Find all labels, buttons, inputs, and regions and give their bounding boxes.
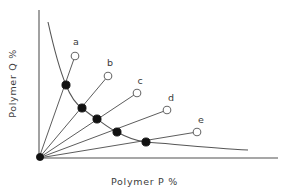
tie-line-c (39, 93, 137, 158)
filled-node-e (142, 138, 150, 146)
point-label-c: c (137, 75, 142, 86)
open-node-e (193, 128, 201, 136)
x-axis-title: Polymer P % (0, 176, 289, 187)
filled-node-b (78, 104, 86, 112)
tie-line-a (39, 56, 75, 158)
filled-node-d (113, 128, 121, 136)
filled-node-c (93, 115, 101, 123)
y-axis-title: Polymer Q % (7, 34, 18, 134)
phase-diagram-figure: a b c d e Polymer P % Polymer Q % (0, 0, 289, 195)
origin-node (36, 153, 43, 160)
open-node-c (133, 89, 141, 97)
point-label-d: d (168, 92, 174, 103)
plot-area: a b c d e (0, 0, 289, 195)
open-node-b (104, 72, 112, 80)
tie-line-d (39, 110, 167, 158)
open-node-a (71, 52, 79, 60)
filled-node-a (62, 81, 70, 89)
point-label-b: b (107, 57, 113, 68)
point-label-a: a (73, 36, 79, 47)
open-node-d (163, 106, 171, 114)
point-label-e: e (198, 114, 204, 125)
